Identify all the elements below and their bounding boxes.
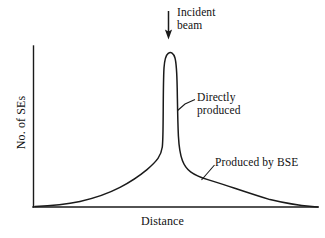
annotation-incident-beam: Incident beam: [177, 6, 215, 32]
incident-beam-label-line1: Incident: [177, 6, 215, 19]
directly-produced-label-line1: Directly: [197, 91, 241, 104]
se-distribution-figure: Incident beam Directly produced Produced…: [0, 0, 325, 238]
annotation-directly-produced: Directly produced: [197, 91, 241, 117]
chart-plot-area: [0, 0, 325, 238]
annotation-produced-by-bse: Produced by BSE: [215, 156, 298, 169]
se-distribution-curve: [35, 53, 318, 207]
y-axis-label: No. of SEs: [15, 73, 28, 173]
produced-by-bse-leader-line: [202, 165, 215, 180]
directly-produced-leader-line: [178, 100, 195, 111]
incident-beam-label-line2: beam: [177, 19, 215, 32]
directly-produced-label-line2: produced: [197, 104, 241, 117]
x-axis-label: Distance: [0, 215, 325, 228]
